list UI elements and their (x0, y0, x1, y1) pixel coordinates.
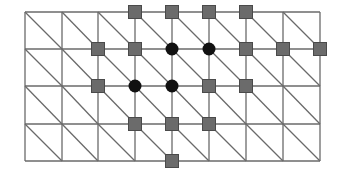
grid-diagonal-line (25, 12, 62, 49)
square-node-icon (240, 43, 253, 56)
grid-diagonal-line (283, 86, 320, 124)
grid-diagonal-line (25, 49, 62, 86)
square-node-icon (166, 6, 179, 19)
square-node-icon (129, 118, 142, 131)
grid-diagonal-line (62, 124, 98, 161)
square-node-icon (92, 80, 105, 93)
square-node-icon (314, 43, 327, 56)
grid-diagonal-line (246, 124, 283, 161)
triangulated-grid-diagram (0, 0, 344, 180)
square-node-icon (203, 6, 216, 19)
circle-node-icon (166, 80, 179, 93)
circle-node-icon (166, 43, 179, 56)
square-node-icon (129, 43, 142, 56)
grid-diagonal-line (25, 124, 62, 161)
square-node-icon (129, 6, 142, 19)
grid-diagonal-line (25, 86, 62, 124)
square-node-icon (92, 43, 105, 56)
square-node-icon (203, 80, 216, 93)
square-node-icon (203, 118, 216, 131)
grid-diagonal-line (283, 124, 320, 161)
square-node-icon (166, 155, 179, 168)
circle-node-icon (129, 80, 142, 93)
circle-node-icon (203, 43, 216, 56)
square-node-icon (277, 43, 290, 56)
square-node-icon (240, 80, 253, 93)
square-node-icon (240, 6, 253, 19)
square-node-icon (166, 118, 179, 131)
